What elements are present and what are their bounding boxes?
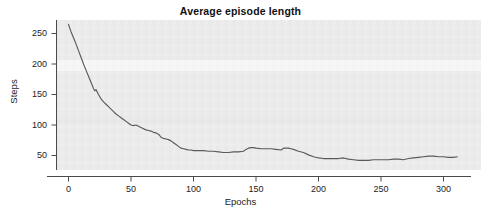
plot-panel (57, 20, 481, 170)
x-tick-label-200: 200 (299, 184, 339, 194)
series-path (69, 24, 458, 160)
x-tick-label-150: 150 (236, 184, 276, 194)
x-tick-label-50: 50 (111, 184, 151, 194)
x-tick-label-100: 100 (174, 184, 214, 194)
x-tick-label-250: 250 (361, 184, 401, 194)
x-axis-title: Epochs (0, 196, 481, 207)
x-tick-label-300: 300 (424, 184, 464, 194)
x-tick-label-0: 0 (49, 184, 89, 194)
chart-title: Average episode length (0, 5, 481, 18)
series-line-average-episode-length (57, 20, 481, 170)
y-tick-label-50: 50 (13, 150, 47, 160)
y-tick-label-100: 100 (13, 120, 47, 130)
y-axis-title: Steps (8, 67, 19, 117)
y-tick-label-250: 250 (13, 28, 47, 38)
chart-figure: Average episode length 250 200 150 100 5… (0, 0, 481, 217)
